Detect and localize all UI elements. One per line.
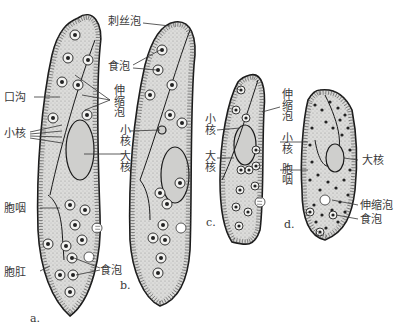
label-macronucleus-c: 大核 <box>203 149 217 173</box>
label-micronucleus-b: 小核 <box>118 124 132 147</box>
label-micronucleus-a: 小核 <box>4 126 26 140</box>
specimen-d: d. <box>284 90 356 240</box>
contractile-vacuole <box>92 223 102 233</box>
label-oral-groove: 口沟 <box>4 91 26 104</box>
label-trichocyst: 刺丝泡 <box>108 14 141 28</box>
macronucleus-d <box>326 144 344 172</box>
macronucleus-c <box>234 125 256 165</box>
label-contractile-vacuole-d: 伸缩泡 <box>360 198 393 212</box>
macronucleus-a <box>66 120 94 180</box>
label-micronucleus-cd: 小核 <box>280 132 294 155</box>
label-food-vacuole-d: 食泡 <box>360 212 382 226</box>
paramecium-diagram: a. b. <box>0 0 397 329</box>
specimen-b: b. <box>120 22 195 306</box>
label-cytoproct: 胞肛 <box>4 266 26 279</box>
contractile-vacuole <box>84 252 94 262</box>
label-cytopharynx-a: 胞咽 <box>4 202 26 215</box>
caption-a: a. <box>30 312 40 325</box>
label-food-vacuole-top: 食泡 <box>108 59 130 73</box>
label-macronucleus-d: 大核 <box>362 153 384 167</box>
caption-d: d. <box>284 218 295 231</box>
caption-b: b. <box>120 279 131 292</box>
label-macronucleus-b: 大核 <box>118 149 132 173</box>
label-contractile-vacuole-ab: 伸缩泡 <box>112 84 126 117</box>
label-contractile-vacuole-cd: 伸缩泡 <box>280 88 294 121</box>
caption-c: c. <box>206 216 216 229</box>
contractile-vacuole-d <box>320 195 330 205</box>
label-cytopharynx-cd: 胞咽 <box>280 163 294 185</box>
label-food-vacuole-bottom: 食泡 <box>100 263 122 277</box>
label-micronucleus-c: 小核 <box>203 113 217 136</box>
